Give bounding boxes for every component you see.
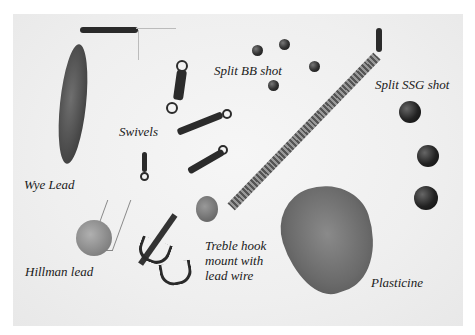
split-ssg-shot [399,101,421,123]
label-plasticine: Plasticine [371,275,423,290]
swivel-body [142,152,147,172]
label-treble-hook: Treble hook mount with lead wire [205,238,266,283]
label-split-bb-shot: Split BB shot [214,63,282,78]
label-hillman-lead: Hillman lead [25,264,93,279]
hillman-lead-weight [76,220,112,256]
swivel-ring [140,172,149,181]
swivel-ring [222,109,232,119]
split-ssg-shot [417,145,439,167]
label-swivels: Swivels [119,124,158,139]
swivel-ring [166,102,178,114]
split-bb-shot [252,45,263,56]
split-bb-shot [268,80,279,91]
swivel-ring [218,145,228,155]
label-split-ssg-shot: Split SSG shot [375,77,449,92]
wye-lead-swivel [80,27,138,33]
wye-lead-line-tag [138,30,139,60]
split-bb-shot [309,61,320,72]
split-bb-shot [279,39,290,50]
mount-bead [196,196,218,222]
wye-lead-line [136,28,176,29]
split-ssg-shot [414,186,438,210]
label-wye-lead: Wye Lead [24,177,74,192]
mount-swivel [376,28,382,52]
